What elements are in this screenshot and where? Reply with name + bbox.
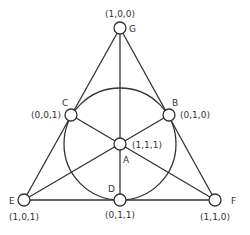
node-a-label: A — [123, 155, 130, 165]
node-c — [65, 109, 77, 121]
node-f — [209, 194, 221, 206]
node-e-coords: (1,0,1) — [9, 212, 39, 222]
node-a-coords: (1,1,1) — [132, 140, 162, 150]
node-f-label: F — [231, 196, 236, 206]
node-b — [163, 109, 175, 121]
node-d-label: D — [108, 184, 115, 194]
node-g-coords: (1,0,0) — [105, 9, 135, 19]
node-c-label: C — [62, 98, 68, 108]
node-b-label: B — [172, 98, 178, 108]
node-d-coords: (0,1,1) — [105, 210, 135, 220]
node-e — [18, 194, 30, 206]
node-d — [114, 194, 126, 206]
node-e-label: E — [9, 196, 15, 206]
fano-plane-diagram: (1,0,0) G C (0,0,1) B (0,1,0) (1,1,1) A … — [0, 0, 250, 235]
line-f-c — [71, 115, 215, 200]
node-b-coords: (0,1,0) — [180, 110, 210, 120]
line-e-b — [24, 115, 169, 200]
node-f-coords: (1,1,0) — [200, 212, 230, 222]
node-c-coords: (0,0,1) — [31, 110, 61, 120]
node-a — [114, 138, 126, 150]
node-g — [114, 22, 126, 34]
node-g-label: G — [129, 24, 136, 34]
